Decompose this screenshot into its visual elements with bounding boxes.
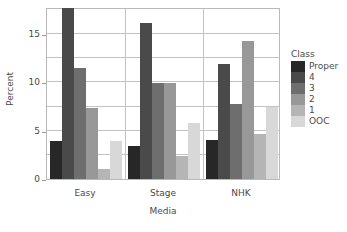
legend: Class Proper4321OOC: [291, 49, 347, 127]
bar: [74, 68, 86, 179]
legend-title: Class: [291, 49, 347, 59]
legend-label: 1: [309, 105, 315, 116]
bar: [230, 104, 242, 179]
bar: [62, 8, 74, 179]
legend-item-1[interactable]: 1: [291, 105, 347, 116]
legend-item-2[interactable]: 2: [291, 94, 347, 105]
plot-area: [46, 8, 280, 180]
y-tick-mark: [42, 180, 46, 181]
legend-label: 4: [309, 72, 315, 83]
legend-swatch-1: [291, 105, 305, 116]
y-axis-ticks: 051015: [0, 0, 40, 232]
legend-item-3[interactable]: 3: [291, 83, 347, 94]
legend-label: 2: [309, 94, 315, 105]
legend-label: Proper: [309, 61, 338, 72]
y-tick-label: 0: [4, 175, 40, 184]
bar: [254, 134, 266, 179]
y-tick-label: 5: [4, 127, 40, 136]
legend-label: OOC: [309, 116, 329, 127]
x-tick-label-nhk: NHK: [202, 188, 280, 198]
bar: [242, 41, 254, 179]
bar: [86, 108, 98, 179]
bar: [266, 107, 278, 179]
y-tick-label: 15: [4, 30, 40, 39]
bar: [128, 146, 140, 179]
x-axis-title: Media: [46, 206, 280, 216]
bar: [98, 169, 110, 179]
bar: [206, 140, 218, 179]
bar: [218, 64, 230, 179]
legend-swatch-2: [291, 94, 305, 105]
bar: [188, 123, 200, 179]
legend-swatch-4: [291, 72, 305, 83]
legend-swatch-3: [291, 83, 305, 94]
legend-item-ooc[interactable]: OOC: [291, 116, 347, 127]
bar: [110, 141, 122, 179]
bar: [50, 141, 62, 179]
legend-swatch-proper: [291, 61, 305, 72]
x-tick-label-stage: Stage: [124, 188, 202, 198]
legend-item-4[interactable]: 4: [291, 72, 347, 83]
bar: [164, 83, 176, 179]
bar-chart: Percent 051015 EasyStageNHK Media Class …: [0, 0, 347, 232]
legend-label: 3: [309, 83, 315, 94]
legend-items: Proper4321OOC: [291, 61, 347, 127]
bars-layer: [47, 9, 279, 179]
legend-swatch-ooc: [291, 116, 305, 127]
bar: [176, 156, 188, 179]
x-tick-label-easy: Easy: [46, 188, 124, 198]
legend-item-proper[interactable]: Proper: [291, 61, 347, 72]
bar: [140, 23, 152, 179]
bar: [152, 83, 164, 179]
y-tick-label: 10: [4, 78, 40, 87]
